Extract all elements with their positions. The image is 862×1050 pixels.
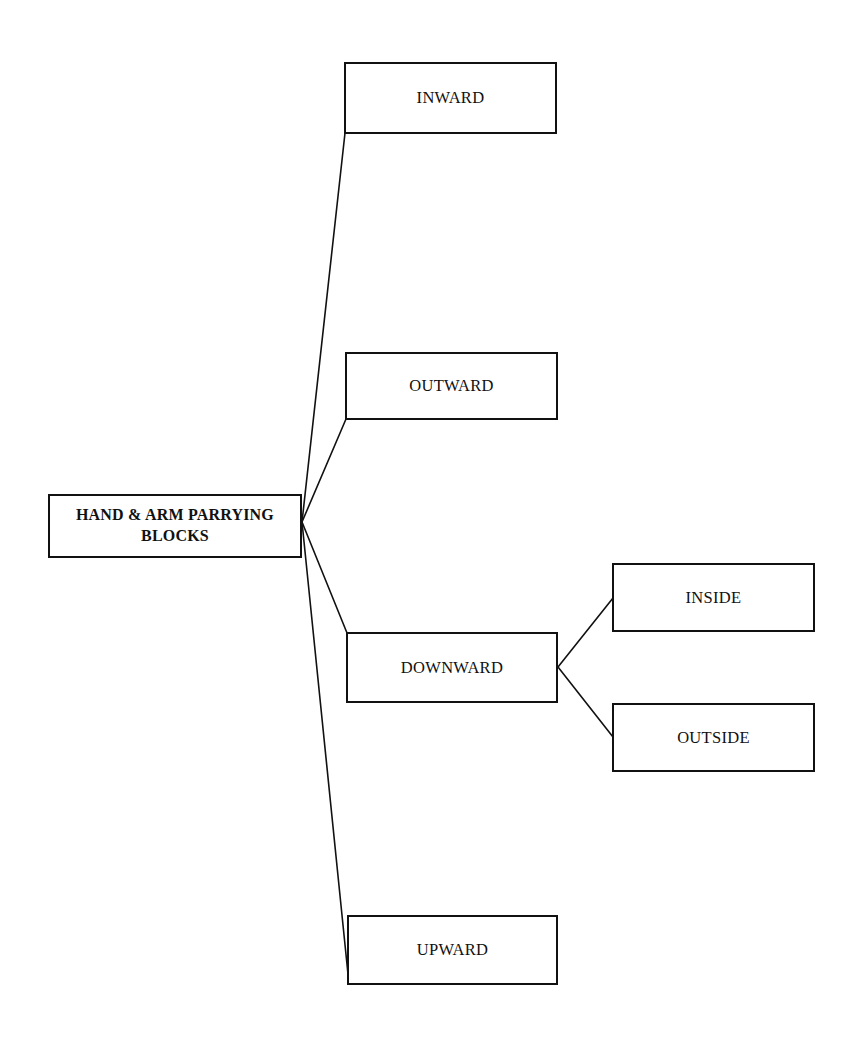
node-downward[interactable]: DOWNWARD	[346, 632, 558, 703]
node-label: OUTWARD	[409, 375, 494, 396]
node-label: INSIDE	[686, 587, 742, 608]
edge-downward-to-inside	[558, 598, 613, 667]
node-label: INWARD	[417, 87, 485, 108]
edge-root-to-upward	[302, 522, 349, 984]
node-label: OUTSIDE	[677, 727, 750, 748]
node-label: DOWNWARD	[401, 657, 503, 678]
node-inward[interactable]: INWARD	[344, 62, 557, 134]
edge-root-to-inward	[302, 133, 345, 522]
edge-root-to-outward	[302, 419, 346, 522]
edge-root-to-downward	[302, 522, 347, 633]
node-label: HAND & ARM PARRYING BLOCKS	[76, 505, 274, 547]
node-outward[interactable]: OUTWARD	[345, 352, 558, 420]
node-inside[interactable]: INSIDE	[612, 563, 815, 632]
node-label: UPWARD	[417, 939, 488, 960]
node-upward[interactable]: UPWARD	[347, 915, 558, 985]
diagram-canvas: HAND & ARM PARRYING BLOCKS INWARD OUTWAR…	[0, 0, 862, 1050]
edge-downward-to-outside	[558, 667, 613, 737]
node-hand-arm-parrying-blocks[interactable]: HAND & ARM PARRYING BLOCKS	[48, 494, 302, 558]
node-outside[interactable]: OUTSIDE	[612, 703, 815, 772]
